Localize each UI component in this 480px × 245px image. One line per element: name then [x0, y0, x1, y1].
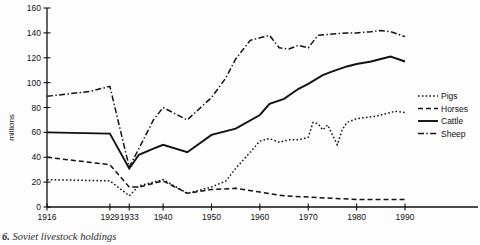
- y-axis-tick-label: 140: [27, 28, 41, 38]
- legend-label-sheep: Sheep: [441, 129, 466, 139]
- x-axis-tick-label: 1916: [38, 212, 57, 222]
- x-axis-tick-label: 1950: [202, 212, 221, 222]
- x-axis-tick-label: 1940: [154, 212, 173, 222]
- line-chart: 020406080100120140160millions19161929193…: [0, 0, 480, 230]
- y-axis-tick-label: 80: [32, 103, 42, 113]
- x-axis-tick-label: 1970: [299, 212, 318, 222]
- legend-label-horses: Horses: [441, 104, 468, 114]
- series-line-sheep: [47, 30, 405, 167]
- legend-label-pigs: Pigs: [441, 91, 458, 101]
- y-axis-tick-label: 120: [27, 53, 41, 63]
- figure-caption: 6. Soviet livestock holdings: [2, 231, 116, 242]
- figure-number: 6.: [2, 231, 10, 242]
- y-axis-tick-label: 60: [32, 127, 42, 137]
- x-axis-tick-label: 1960: [250, 212, 269, 222]
- series-line-pigs: [47, 111, 405, 196]
- figure-caption-text: Soviet livestock holdings: [13, 231, 117, 242]
- legend-label-cattle: Cattle: [441, 116, 463, 126]
- chart-canvas: 020406080100120140160millions19161929193…: [0, 0, 480, 230]
- y-axis-tick-label: 40: [32, 152, 42, 162]
- y-axis-tick-label: 20: [32, 177, 42, 187]
- x-axis-tick-label: 1990: [396, 212, 415, 222]
- x-axis-tick-label: 1933: [120, 212, 139, 222]
- figure-root: 020406080100120140160millions19161929193…: [0, 0, 480, 245]
- y-axis-title: millions: [7, 114, 16, 141]
- y-axis-tick-label: 100: [27, 78, 41, 88]
- y-axis-tick-label: 160: [27, 3, 41, 13]
- series-line-horses: [47, 157, 405, 199]
- x-axis-tick-label: 1980: [347, 212, 366, 222]
- x-axis-tick-label: 1929: [100, 212, 119, 222]
- y-axis-tick-label: 0: [36, 202, 41, 212]
- series-line-cattle: [47, 57, 405, 169]
